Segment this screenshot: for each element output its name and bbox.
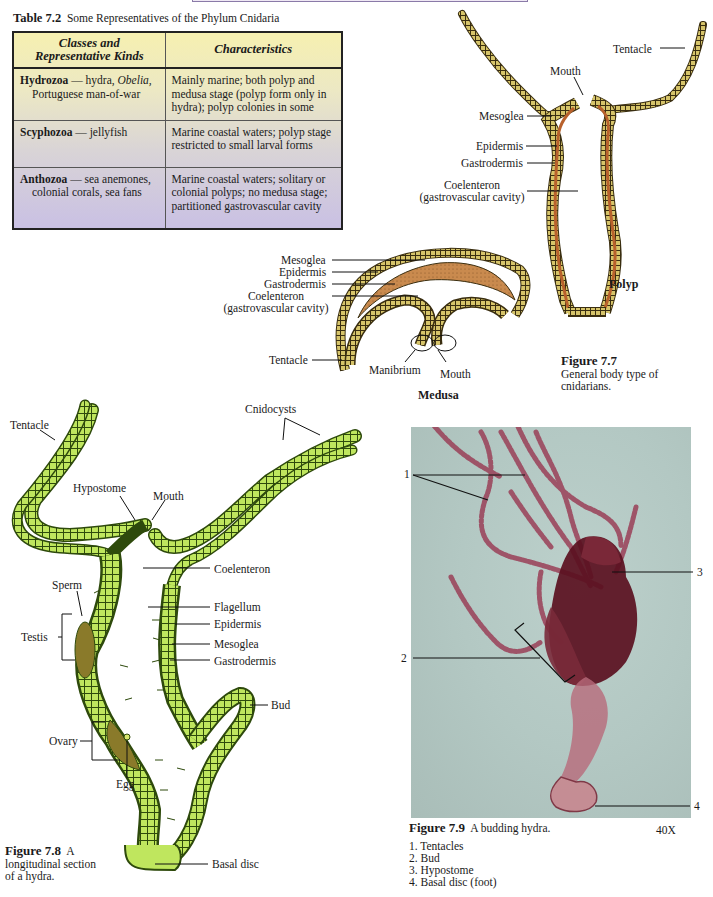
photo-callout-4: 4 — [694, 800, 700, 812]
polyp-label-tentacle: Tentacle — [613, 43, 652, 55]
table-row: Scyphozoa — jellyfish Marine coastal wat… — [13, 120, 342, 167]
table-header-classes: Classes and Representative Kinds — [13, 32, 165, 68]
hydra-label-mesoglea: Mesoglea — [214, 638, 259, 650]
table-caption: Table 7.2 Some Representatives of the Ph… — [13, 11, 279, 26]
hydra-micrograph — [411, 427, 691, 818]
table-row: Anthozoa — sea anemones, colonial corals… — [13, 167, 342, 229]
photo-callout-1: 1 — [404, 468, 410, 480]
medusa-label-gastrodermis: Gastrodermis — [264, 278, 326, 290]
medusa-diagram — [312, 253, 525, 370]
legend-item: 3. Hypostome — [409, 864, 497, 876]
medusa-label-mouth: Mouth — [440, 368, 471, 380]
hydra-label-coelenteron: Coelenteron — [214, 563, 270, 575]
page-header-banner — [192, 0, 528, 2]
figure-7-8-caption: Figure 7.8 A longitudinal section of a h… — [5, 845, 96, 883]
hydra-label-bud: Bud — [271, 699, 290, 711]
table-row: Hydrozoa — hydra, Obelia, Portuguese man… — [13, 68, 342, 120]
hydra-label-ovary: Ovary — [49, 735, 78, 747]
hydra-label-mouth: Mouth — [153, 490, 184, 502]
polyp-label-mouth: Mouth — [550, 65, 581, 77]
hydra-label-basal-disc: Basal disc — [212, 858, 259, 870]
table-cell-characteristics: Mainly marine; both polyp and medusa sta… — [165, 68, 342, 120]
polyp-label-epidermis: Epidermis — [476, 140, 523, 152]
table-cell-characteristics: Marine coastal waters; solitary or colon… — [165, 167, 342, 229]
polyp-label-gastrodermis: Gastrodermis — [461, 157, 523, 169]
hydra-label-tentacle: Tentacle — [10, 419, 49, 431]
legend-item: 1. Tentacles — [409, 840, 497, 852]
table-header-row: Classes and Representative Kinds Charact… — [13, 32, 342, 68]
magnification-label: 40X — [656, 824, 676, 837]
polyp-title: Polyp — [609, 278, 638, 290]
hydra-label-flagellum: Flagellum — [214, 601, 261, 613]
table-caption-text: Some Representatives of the Phylum Cnida… — [67, 12, 279, 24]
medusa-label-epidermis: Epidermis — [279, 266, 326, 278]
photo-callout-2: 2 — [401, 652, 407, 664]
medusa-label-coelenteron: Coelenteron (gastrovascular cavity) — [220, 290, 332, 314]
table-cell-characteristics: Marine coastal waters; polyp stage restr… — [165, 120, 342, 167]
table-caption-number: Table 7.2 — [13, 11, 61, 25]
figure-7-7-caption: Figure 7.7 General body type of cnidaria… — [561, 355, 658, 393]
hydra-label-gastrodermis: Gastrodermis — [214, 655, 276, 667]
polyp-label-mesoglea: Mesoglea — [479, 110, 524, 122]
hydra-label-testis: Testis — [21, 631, 48, 643]
hydra-section-diagram — [17, 405, 355, 870]
photo-callout-3: 3 — [697, 566, 703, 578]
hydra-label-hypostome: Hypostome — [73, 482, 126, 494]
budding-hydra-photo — [411, 427, 691, 818]
medusa-label-manibrium: Manibrium — [369, 364, 421, 376]
hydra-label-epidermis: Epidermis — [214, 618, 261, 630]
photo-legend: 1. Tentacles 2. Bud 3. Hypostome 4. Basa… — [409, 840, 497, 888]
legend-item: 4. Basal disc (foot) — [409, 876, 497, 888]
hydra-label-sperm: Sperm — [52, 579, 82, 591]
figure-7-9-caption: Figure 7.9 A budding hydra. — [409, 822, 550, 835]
hydra-label-egg: Egg — [116, 778, 135, 790]
table-cell-kind: Hydrozoa — hydra, Obelia, Portuguese man… — [13, 68, 165, 120]
cnidaria-table: Classes and Representative Kinds Charact… — [12, 31, 343, 230]
table-cell-kind: Anthozoa — sea anemones, colonial corals… — [13, 167, 165, 229]
hydra-label-cnidocysts: Cnidocysts — [245, 403, 296, 415]
polyp-label-coelenteron: Coelenteron (gastrovascular cavity) — [417, 179, 527, 203]
table-cell-kind: Scyphozoa — jellyfish — [13, 120, 165, 167]
medusa-label-mesoglea: Mesoglea — [281, 254, 326, 266]
medusa-title: Medusa — [418, 389, 459, 401]
medusa-label-tentacle: Tentacle — [269, 354, 308, 366]
legend-item: 2. Bud — [409, 852, 497, 864]
table-header-characteristics: Characteristics — [165, 32, 342, 68]
